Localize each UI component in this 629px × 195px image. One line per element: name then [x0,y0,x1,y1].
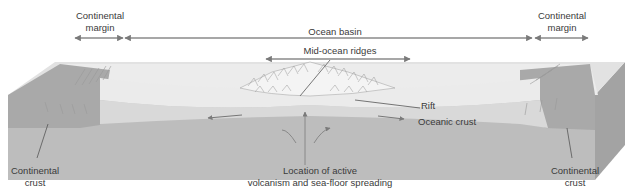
label-line: Continental [545,165,605,177]
label-rift: Rift [421,100,435,112]
label-line: crust [545,177,605,189]
label-continental-margin-left: Continental margin [70,10,130,34]
label-mid-ocean-ridges: Mid-ocean ridges [290,45,390,57]
label-active-zone: Location of active volcanism and sea-flo… [225,165,415,189]
label-line: Continental [70,10,130,22]
label-line: margin [532,22,592,34]
label-ocean-basin: Ocean basin [290,26,380,38]
label-line: volcanism and sea-floor spreading [225,177,415,189]
label-line: Continental [532,10,592,22]
label-line: crust [5,177,65,189]
label-line: margin [70,22,130,34]
label-line: Continental [5,165,65,177]
label-continental-crust-left: Continental crust [5,165,65,189]
earth-block [8,60,625,180]
label-line: Location of active [225,165,415,177]
label-oceanic-crust: Oceanic crust [418,116,476,128]
label-continental-crust-right: Continental crust [545,165,605,189]
label-continental-margin-right: Continental margin [532,10,592,34]
